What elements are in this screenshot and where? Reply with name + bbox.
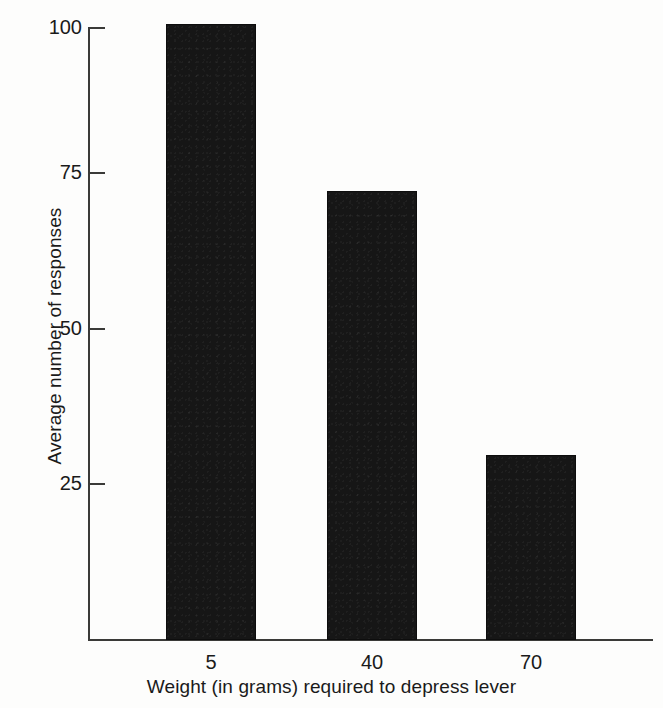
x-tick-label-70: 70: [471, 650, 591, 674]
bar-category-40: [327, 191, 417, 640]
bar-category-5: [166, 24, 256, 640]
x-axis-title: Weight (in grams) required to depress le…: [0, 676, 663, 698]
x-tick-label-5: 5: [151, 650, 271, 674]
x-tick-label-40: 40: [312, 650, 432, 674]
bar-chart-figure: Average number of responses 100 75 50 25…: [0, 0, 663, 708]
plot-area: [0, 0, 663, 708]
bar-category-70: [486, 455, 576, 640]
